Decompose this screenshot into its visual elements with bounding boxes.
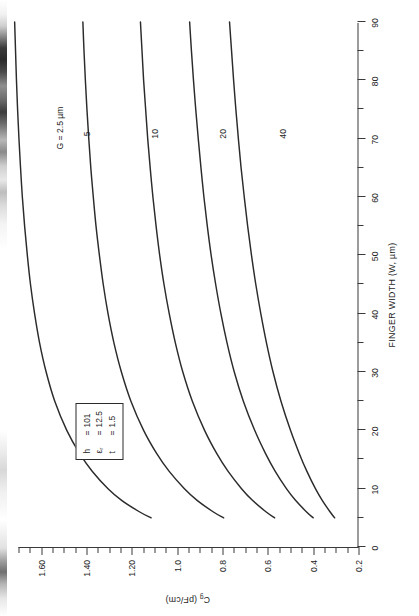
y-axis-minor-tick — [165, 547, 166, 553]
curve-label: 5 — [81, 131, 91, 136]
x-axis-major-tick — [357, 371, 365, 372]
x-axis-major-tick — [357, 79, 365, 80]
y-axis-minor-tick — [154, 547, 155, 553]
y-axis-minor-tick — [290, 547, 291, 553]
x-axis-tick-label: 90 — [369, 18, 379, 28]
x-axis-minor-tick — [357, 284, 363, 285]
y-axis-tick-label: 0.2 — [353, 560, 363, 588]
x-axis-minor-tick — [357, 167, 363, 168]
y-axis-minor-tick — [188, 547, 189, 553]
y-axis-major-tick — [222, 547, 223, 555]
y-axis-major-tick — [177, 547, 178, 555]
y-axis-minor-tick — [143, 547, 144, 553]
parameter-equals: = — [105, 428, 117, 439]
y-axis-minor-tick — [18, 547, 19, 553]
y-axis-minor-tick — [256, 547, 257, 553]
y-axis-tick-label: 1.20 — [126, 560, 136, 588]
curve-label: G = 2.5 µm — [54, 107, 64, 150]
x-axis-major-tick — [357, 196, 365, 197]
x-axis-major-tick — [357, 254, 365, 255]
y-axis-major-tick — [86, 547, 87, 555]
y-axis-minor-tick — [324, 547, 325, 553]
data-curve — [229, 22, 334, 518]
y-axis-minor-tick — [120, 547, 121, 553]
y-axis-minor-tick — [97, 547, 98, 553]
x-axis-major-tick — [357, 21, 365, 22]
parameter-symbol: h — [80, 439, 92, 454]
x-axis-minor-tick — [357, 109, 363, 110]
x-axis-tick-label: 40 — [369, 310, 379, 320]
x-axis-tick-label: 80 — [369, 77, 379, 87]
y-axis-major-tick — [267, 547, 268, 555]
y-axis-title: Cg (pF/cm) — [165, 594, 210, 604]
parameter-value: 12.5 — [92, 411, 105, 427]
parameter-value: 101 — [80, 414, 92, 428]
x-axis-tick-label: 30 — [369, 368, 379, 378]
plot-area — [18, 23, 358, 548]
x-axis-tick-label: 60 — [369, 193, 379, 203]
x-axis-title: FINGER WIDTH (W, µm) — [386, 243, 396, 348]
y-axis-tick-label: 1.60 — [36, 560, 46, 588]
curve-layer — [18, 22, 358, 547]
y-axis-major-tick — [131, 547, 132, 555]
y-axis-minor-tick — [75, 547, 76, 553]
parameter-symbol: t — [105, 439, 117, 454]
y-axis-minor-tick — [199, 547, 200, 553]
y-axis-minor-tick — [233, 547, 234, 553]
y-axis-minor-tick — [301, 547, 302, 553]
curve-label: 20 — [217, 129, 227, 139]
x-axis-minor-tick — [357, 400, 363, 401]
y-axis-minor-tick — [347, 547, 348, 553]
curve-label: 10 — [149, 129, 159, 139]
rotated-chart-stage: FINGER WIDTH (W, µm) Cg (pF/cm) h=101εr=… — [0, 0, 419, 616]
y-axis-minor-tick — [245, 547, 246, 553]
x-axis-minor-tick — [357, 517, 363, 518]
x-axis-major-tick — [357, 488, 365, 489]
parameter-equals: = — [80, 428, 92, 439]
y-axis-tick-label: 0.4 — [308, 560, 318, 588]
x-axis-tick-label: 50 — [369, 252, 379, 262]
y-axis-major-tick — [313, 547, 314, 555]
x-axis-tick-label: 20 — [369, 427, 379, 437]
y-axis-tick-label: 0.8 — [217, 560, 227, 588]
parameter-row: h=101 — [80, 411, 92, 453]
x-axis-tick-label: 10 — [369, 485, 379, 495]
y-axis-minor-tick — [109, 547, 110, 553]
y-axis-minor-tick — [29, 547, 30, 553]
y-axis-minor-tick — [279, 547, 280, 553]
parameter-symbol: εr — [92, 439, 105, 454]
y-axis-tick-label: 1.40 — [81, 560, 91, 588]
x-axis-minor-tick — [357, 50, 363, 51]
curve-label: 40 — [277, 129, 287, 139]
y-axis-tick-label: 0.6 — [262, 560, 272, 588]
x-axis-minor-tick — [357, 225, 363, 226]
x-axis-major-tick — [357, 429, 365, 430]
y-axis-minor-tick — [335, 547, 336, 553]
y-axis-minor-tick — [63, 547, 64, 553]
parameter-equals: = — [92, 428, 105, 439]
x-axis-minor-tick — [357, 342, 363, 343]
parameter-annotation-box: h=101εr=12.5t=1.5 — [75, 403, 123, 460]
x-axis-tick-label: 0 — [369, 546, 379, 551]
y-axis-major-tick — [41, 547, 42, 555]
y-axis-tick-label: 1.0 — [172, 560, 182, 588]
y-axis-minor-tick — [211, 547, 212, 553]
parameter-row: t=1.5 — [105, 411, 117, 453]
y-axis-major-tick — [358, 547, 359, 555]
x-axis-minor-tick — [357, 459, 363, 460]
parameter-row: εr=12.5 — [92, 411, 105, 453]
y-axis-title-text: Cg (pF/cm) — [165, 595, 210, 605]
x-axis-major-tick — [357, 138, 365, 139]
y-axis-minor-tick — [52, 547, 53, 553]
parameter-value: 1.5 — [105, 416, 117, 428]
x-axis-tick-label: 70 — [369, 135, 379, 145]
data-curve — [189, 22, 313, 518]
x-axis-major-tick — [357, 313, 365, 314]
